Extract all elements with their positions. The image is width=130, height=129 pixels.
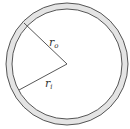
outer-radius-label: ro — [49, 36, 58, 50]
inner-radius-line — [19, 64, 67, 90]
inner-radius-label: ri — [45, 77, 53, 91]
outer-radius-line — [24, 23, 67, 64]
ring-area — [6, 3, 128, 125]
annulus-diagram: ro ri — [0, 0, 130, 129]
